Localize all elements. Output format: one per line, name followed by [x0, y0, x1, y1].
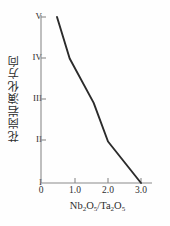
x-axis-label: Nb2O5/Ta2O5: [30, 200, 165, 213]
data-series-line: [57, 17, 141, 183]
y-axis-ticks: [41, 17, 46, 140]
x-axis-ticks: [75, 178, 141, 183]
plot-area: [0, 0, 170, 226]
chart-figure: 花岗岩演化方向 V IV III II I 0 1.0 2.0 3.0 Nb2O…: [0, 0, 170, 226]
